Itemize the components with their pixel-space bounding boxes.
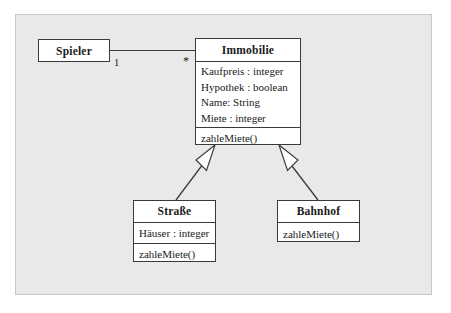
class-name-spieler: Spieler: [39, 40, 109, 63]
method-compartment-immobilie: zahleMiete(): [196, 127, 300, 147]
attribute-row: Hypothek : boolean: [201, 80, 295, 96]
multiplicity-label-target: *: [183, 55, 189, 67]
method-row: zahleMiete(): [201, 129, 295, 147]
method-compartment-strasse: zahleMiete(): [134, 243, 215, 264]
class-name-immobilie: Immobilie: [196, 39, 300, 61]
class-box-immobilie[interactable]: Immobilie Kaufpreis : integer Hypothek :…: [195, 38, 301, 145]
method-row: zahleMiete(): [283, 224, 354, 244]
attribute-row: Kaufpreis : integer: [201, 64, 295, 80]
class-box-spieler[interactable]: Spieler: [38, 39, 110, 62]
class-name-strasse: Straße: [134, 201, 215, 222]
class-box-bahnhof[interactable]: Bahnhof zahleMiete(): [277, 200, 360, 242]
attribute-compartment-immobilie: Kaufpreis : integer Hypothek : boolean N…: [196, 61, 300, 127]
association-line-spieler-immobilie: [110, 50, 195, 51]
attribute-compartment-strasse: Häuser : integer: [134, 222, 215, 243]
attribute-row: Name: String: [201, 95, 295, 111]
method-row: zahleMiete(): [139, 245, 210, 264]
class-box-strasse[interactable]: Straße Häuser : integer zahleMiete(): [133, 200, 216, 262]
class-name-bahnhof: Bahnhof: [278, 201, 359, 222]
attribute-row: Häuser : integer: [139, 224, 210, 243]
multiplicity-label-source: 1: [114, 57, 119, 69]
diagram-canvas: 1 * Spieler Immobilie Kaufpreis : intege…: [0, 0, 451, 313]
attribute-row: Miete : integer: [201, 111, 295, 127]
method-compartment-bahnhof: zahleMiete(): [278, 222, 359, 244]
